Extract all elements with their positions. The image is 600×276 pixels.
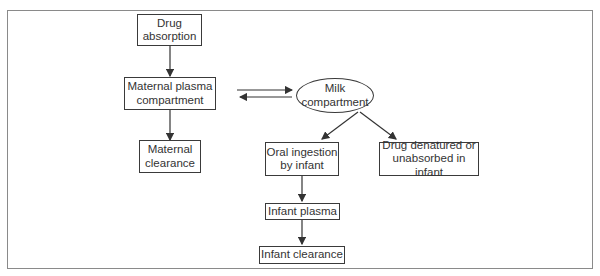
edge-milk-to-denatured	[360, 112, 396, 139]
node-maternal-clearance: Maternal clearance	[139, 140, 201, 173]
edge-milk-to-oral	[322, 112, 358, 139]
node-drug-denatured: Drug denatured or unabsorbed in infant	[379, 142, 479, 176]
node-maternal-plasma: Maternal plasma compartment	[124, 77, 216, 110]
node-infant-clearance: Infant clearance	[259, 246, 345, 264]
node-infant-plasma: Infant plasma	[265, 203, 340, 220]
node-drug-absorption: Drug absorption	[137, 14, 202, 46]
edges-layer	[0, 0, 600, 276]
node-oral-ingestion: Oral ingestion by infant	[265, 142, 339, 176]
node-milk-compartment: Milk compartment	[296, 78, 374, 113]
